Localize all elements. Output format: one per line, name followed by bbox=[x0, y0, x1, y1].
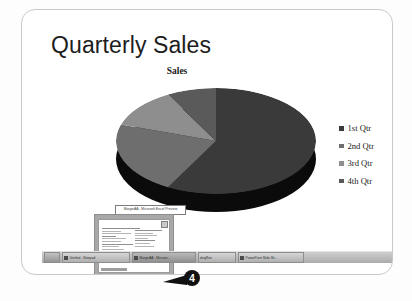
excel-icon bbox=[134, 256, 138, 260]
legend-item-2nd-qtr[interactable]: 2nd Qtr bbox=[339, 142, 374, 151]
start-button[interactable] bbox=[44, 252, 60, 263]
pie-top-face bbox=[116, 88, 316, 194]
taskbar-item-label: Untitled - Notepad bbox=[70, 256, 96, 260]
legend-item-4th-qtr[interactable]: 4th Qtr bbox=[339, 177, 374, 186]
presentation-slide: Quarterly Sales Sales 1st Qtr 2nd bbox=[21, 9, 393, 275]
legend-label: 3rd Qtr bbox=[348, 159, 373, 168]
chart-title: Sales bbox=[40, 66, 314, 76]
chart-legend: 1st Qtr 2nd Qtr 3rd Qtr 4th Qtr bbox=[339, 124, 374, 194]
page-title: Quarterly Sales bbox=[51, 32, 211, 58]
windows-taskbar[interactable]: Untitled - Notepad MarginAA - Microso...… bbox=[42, 251, 393, 263]
taskbar-item-dingrun[interactable]: dingRun bbox=[198, 252, 236, 263]
legend-item-3rd-qtr[interactable]: 3rd Qtr bbox=[339, 159, 374, 168]
taskbar-item-label: PowerPoint Slide Sh... bbox=[246, 256, 278, 260]
legend-swatch-icon bbox=[339, 144, 344, 149]
legend-item-1st-qtr[interactable]: 1st Qtr bbox=[339, 124, 374, 133]
screenshot-root: Quarterly Sales Sales 1st Qtr 2nd bbox=[0, 0, 412, 301]
callout-annotation: 4 bbox=[163, 266, 203, 290]
notepad-icon bbox=[64, 256, 68, 260]
close-icon[interactable] bbox=[161, 221, 168, 228]
powerpoint-icon bbox=[240, 256, 244, 260]
preview-text-column-right bbox=[135, 230, 167, 248]
legend-swatch-icon bbox=[339, 161, 344, 166]
taskbar-item-label: dingRun bbox=[200, 256, 212, 260]
callout-number: 4 bbox=[184, 270, 200, 286]
taskbar-item-excel[interactable]: MarginAA - Microso... bbox=[132, 252, 196, 263]
taskbar-item-powerpoint[interactable]: PowerPoint Slide Sh... bbox=[238, 252, 304, 263]
taskbar-item-label: MarginAA - Microso... bbox=[140, 256, 170, 260]
legend-swatch-icon bbox=[339, 179, 344, 184]
legend-label: 4th Qtr bbox=[348, 177, 373, 186]
taskbar-item-notepad[interactable]: Untitled - Notepad bbox=[62, 252, 130, 263]
legend-label: 1st Qtr bbox=[348, 124, 372, 133]
preview-status-bar bbox=[101, 268, 127, 271]
pie-chart[interactable]: Sales 1st Qtr 2nd Qtr bbox=[40, 66, 376, 246]
preview-document-body bbox=[98, 219, 170, 273]
preview-window-frame[interactable] bbox=[94, 214, 174, 275]
legend-swatch-icon bbox=[339, 126, 344, 131]
legend-label: 2nd Qtr bbox=[348, 142, 375, 151]
excel-preview-thumbnail[interactable]: MarginAA - Microsoft Excel Preview bbox=[94, 205, 184, 275]
